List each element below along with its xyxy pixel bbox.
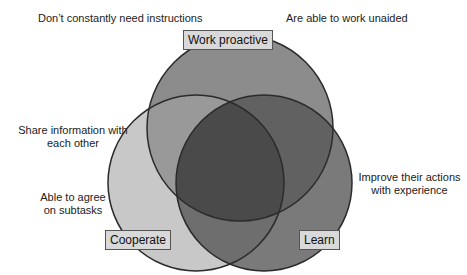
label-learn: Learn [299, 230, 340, 250]
note-agree-line1: Able to agree [38, 191, 108, 204]
note-improve-line1: Improve their actions [352, 171, 467, 184]
label-cooperate: Cooperate [105, 230, 171, 250]
note-dont-need-instructions: Don’t constantly need instructions [38, 12, 202, 25]
note-share-line2: each other [18, 137, 128, 150]
note-work-unaided: Are able to work unaided [286, 12, 408, 25]
note-share-line1: Share information with [18, 124, 128, 137]
note-share-information: Share information with each other [18, 124, 128, 150]
note-improve-actions: Improve their actions with experience [352, 171, 467, 197]
note-improve-line2: with experience [352, 184, 467, 197]
label-work-proactive: Work proactive [183, 30, 273, 50]
note-agree-subtasks: Able to agree on subtasks [38, 191, 108, 217]
note-agree-line2: on subtasks [38, 204, 108, 217]
